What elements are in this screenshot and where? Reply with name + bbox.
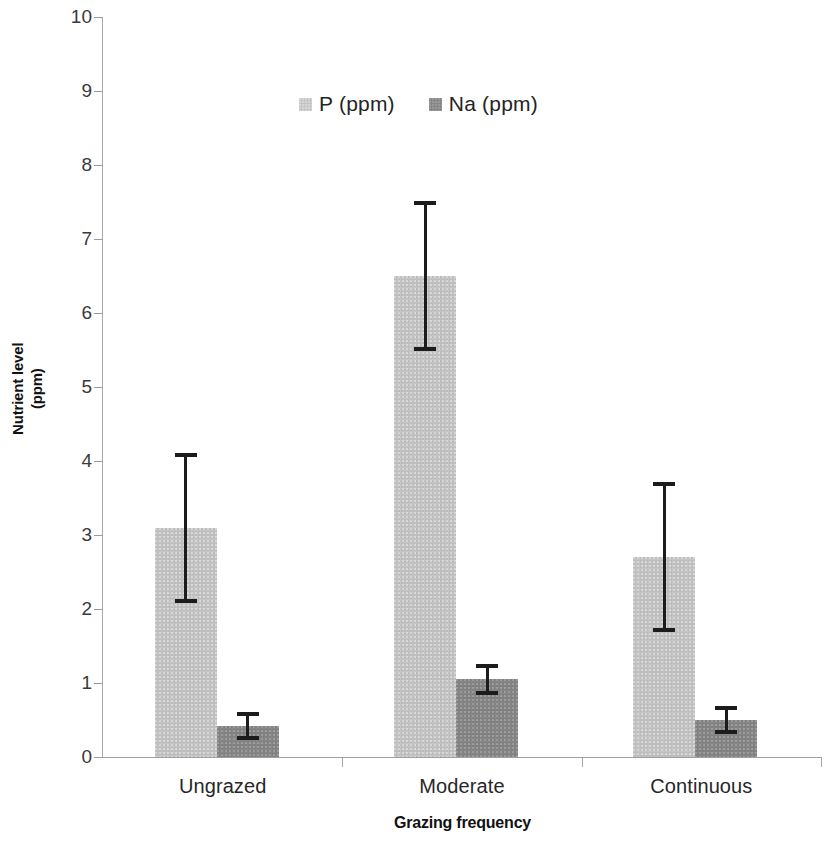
y-axis-tick-label: 8 [52,154,92,176]
x-axis-title: Grazing frequency [103,814,822,832]
error-bar-stem [246,713,249,740]
error-bar-cap-top [476,664,498,668]
y-axis-title-line1: Nutrient level [9,309,28,469]
bar-chart-figure: Nutrient level (ppm) 012345678910 P (ppm… [0,0,837,844]
y-axis-tick-label: 7 [52,228,92,250]
error-bar-cap-bottom [653,628,675,632]
x-axis-tick-label: Moderate [419,775,504,798]
error-bar-cap-bottom [476,691,498,695]
y-axis-tick-label: 6 [52,302,92,324]
error-bar-cap-top [414,201,436,205]
error-bar-cap-bottom [414,347,436,351]
y-axis-tick-label: 10 [52,6,92,28]
x-axis-line [103,757,822,758]
y-axis-tick-label: 2 [52,598,92,620]
y-axis-tick-label: 4 [52,450,92,472]
x-axis-tick-mark [342,758,343,767]
error-bar-stem [486,665,489,695]
plot-area [103,17,821,757]
y-axis-title: Nutrient level (ppm) [9,309,47,469]
y-axis-tick-labels: 012345678910 [44,0,92,844]
error-bar-cap-top [715,706,737,710]
error-bar-cap-bottom [715,730,737,734]
x-axis-tick-label: Continuous [650,775,752,798]
error-bar-cap-top [175,453,197,457]
error-bar-stem [725,707,728,734]
y-axis-tick-label: 1 [52,672,92,694]
error-bar-cap-top [653,482,675,486]
error-bar-cap-top [237,712,259,716]
error-bar-stem [184,454,187,602]
error-bar-stem [424,202,427,350]
y-axis-tick-label: 5 [52,376,92,398]
x-axis-tick-label: Ungrazed [179,775,267,798]
x-axis-tick-mark [582,758,583,767]
y-axis-tick-mark [94,757,103,758]
y-axis-tick-label: 3 [52,524,92,546]
x-axis-tick-mark [821,758,822,767]
y-axis-tick-label: 0 [52,746,92,768]
error-bar-cap-bottom [237,736,259,740]
error-bar-stem [663,483,666,631]
error-bar-cap-bottom [175,599,197,603]
